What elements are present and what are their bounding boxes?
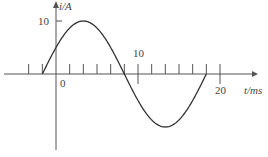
x-axis-label: t/ms bbox=[244, 84, 262, 96]
x-axis-arrow-icon bbox=[252, 71, 258, 77]
x-tick-label-20: 20 bbox=[215, 84, 227, 96]
origin-label: 0 bbox=[60, 77, 66, 89]
y-axis-label: i/A bbox=[59, 0, 72, 12]
sine-chart: i/A 10 0 10 20 t/ms bbox=[0, 0, 268, 157]
x-tick-label-10: 10 bbox=[133, 47, 145, 59]
y-tick-label-10: 10 bbox=[38, 15, 50, 27]
